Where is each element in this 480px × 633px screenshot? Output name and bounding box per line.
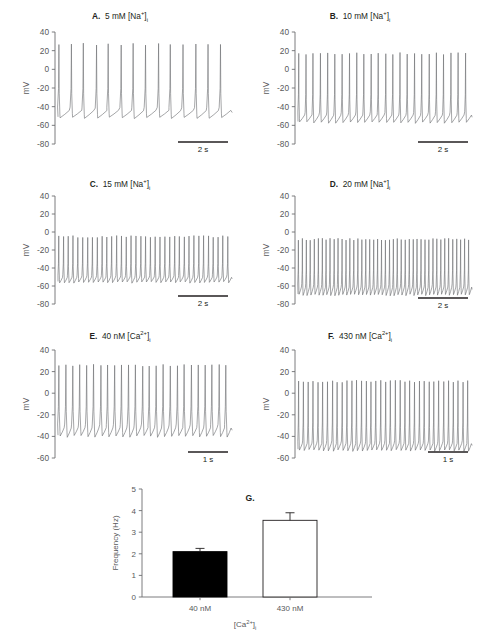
voltage-trace [298,380,472,451]
panel-C: C. 15 mM [Na+]i 40200-20-40-60-80mV2 s [0,178,240,328]
y-axis-tick-label: 0 [44,64,49,74]
time-scale-bar-label: 2 s [438,301,449,310]
g-y-axis-tick-label: 4 [132,507,137,516]
y-axis-tick-label: -40 [277,102,289,112]
panel-D: D. 20 mM [Na+]i 40200-20-40-60-80mV2 s [240,178,480,328]
y-axis-tick-label: 20 [40,209,50,219]
g-y-axis-tick-label: 3 [132,528,137,537]
voltage-trace [58,236,232,284]
bar-430-nm [263,520,317,597]
y-axis-tick-label: -60 [37,281,49,291]
g-y-axis-title: Frequency (Hz) [111,515,120,570]
panel-G-label: G. [245,493,254,503]
panel-F: F. 430 nM [Ca2+]i 40200-20-40-60mV1 s [240,330,480,485]
y-axis-tick-label: -20 [37,245,49,255]
figure-root: A. 5 mM [Na+]i 40200-20-40-60-80mV2 s B.… [0,0,480,633]
y-axis-tick-label: 40 [40,191,50,201]
y-axis-tick-label: -20 [277,245,289,255]
time-scale-bar-label: 2 s [198,145,209,154]
y-axis-tick-label: -80 [277,139,289,149]
y-axis-tick-label: -80 [37,299,49,309]
y-axis-tick-label: -60 [37,120,49,130]
panel-E: E. 40 nM [Ca2+]i 40200-20-40-60mV1 s [0,330,240,485]
y-axis-title: mV [261,397,271,410]
y-axis-tick-label: 20 [40,46,50,56]
y-axis-tick-label: -40 [277,431,289,441]
time-scale-bar-label: 1 s [443,455,454,464]
y-axis-tick-label: -40 [37,263,49,273]
y-axis-tick-label: -60 [277,453,289,463]
g-x-axis-category-label: 430 nM [277,604,304,613]
g-y-axis-tick-label: 1 [132,571,137,580]
y-axis-tick-label: 40 [40,345,50,355]
y-axis-title: mV [21,397,31,410]
voltage-trace [58,364,232,437]
voltage-trace [58,43,232,118]
g-y-axis-tick-label: 5 [132,485,137,494]
g-x-axis-title: [Ca2+]i [234,619,257,631]
y-axis-tick-label: -60 [37,453,49,463]
time-scale-bar-label: 1 s [203,455,214,464]
y-axis-tick-label: 20 [280,46,290,56]
y-axis-tick-label: -80 [37,139,49,149]
panel-G-bar-chart: 012345Frequency (Hz)G.40 nM430 nM[Ca2+]i [100,483,380,633]
y-axis-tick-label: 0 [44,388,49,398]
y-axis-title: mV [21,81,31,94]
y-axis-tick-label: -40 [277,263,289,273]
y-axis-title: mV [21,243,31,256]
y-axis-tick-label: 20 [280,209,290,219]
y-axis-tick-label: 0 [284,227,289,237]
y-axis-tick-label: 40 [280,191,290,201]
panel-A: A. 5 mM [Na+]i 40200-20-40-60-80mV2 s [0,10,240,175]
y-axis-tick-label: -40 [37,102,49,112]
y-axis-tick-label: 20 [280,367,290,377]
y-axis-tick-label: 0 [44,227,49,237]
y-axis-title: mV [261,243,271,256]
y-axis-tick-label: -20 [277,410,289,420]
panel-B: B. 10 mM [Na+]i 40200-20-40-60-80mV2 s [240,10,480,175]
bar-40-nm [173,552,227,597]
time-scale-bar-label: 2 s [198,299,209,308]
time-scale-bar-label: 2 s [438,145,449,154]
y-axis-tick-label: 40 [280,345,290,355]
y-axis-tick-label: -20 [277,83,289,93]
y-axis-title: mV [261,81,271,94]
y-axis-tick-label: -60 [277,281,289,291]
voltage-trace [298,53,472,124]
voltage-trace [298,238,472,296]
y-axis-tick-label: 0 [284,388,289,398]
y-axis-tick-label: -40 [37,431,49,441]
y-axis-tick-label: -80 [277,299,289,309]
y-axis-tick-label: -60 [277,120,289,130]
y-axis-tick-label: -20 [37,83,49,93]
g-x-axis-category-label: 40 nM [189,604,212,613]
y-axis-tick-label: -20 [37,410,49,420]
y-axis-tick-label: 40 [280,27,290,37]
g-y-axis-tick-label: 0 [132,593,137,602]
y-axis-tick-label: 40 [40,27,50,37]
g-y-axis-tick-label: 2 [132,550,137,559]
y-axis-tick-label: 0 [284,64,289,74]
y-axis-tick-label: 20 [40,367,50,377]
